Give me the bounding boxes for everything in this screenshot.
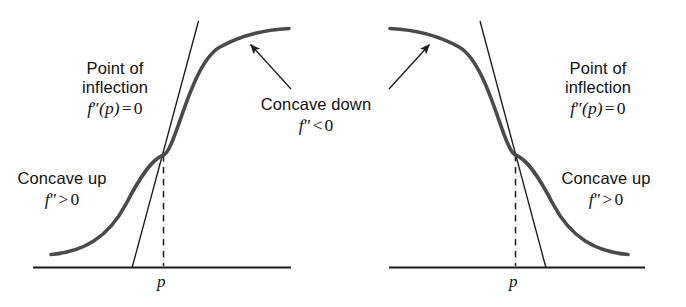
right-concave-up-relation: > xyxy=(600,189,614,209)
left-inflection-value: 0 xyxy=(134,98,143,118)
right-concave-up-value: 0 xyxy=(614,189,623,209)
left-inflection-relation: = xyxy=(120,98,134,118)
left-point-of-inflection-label: Point of inflection f″(p)=0 xyxy=(45,59,185,118)
right-axis-p-label: p xyxy=(509,272,518,292)
left-concave-up-label: Concave up f″>0 xyxy=(2,169,122,209)
left-inflection-line2: inflection xyxy=(45,78,185,97)
left-concave-up-equation: f″>0 xyxy=(2,190,122,209)
right-concave-up-label: Concave up f″>0 xyxy=(545,169,667,209)
right-concave-up-text: Concave up xyxy=(545,169,667,188)
right-concave-up-equation: f″>0 xyxy=(545,190,667,209)
right-concave-down-arrow xyxy=(389,45,430,90)
left-concave-down-equation: f″<0 xyxy=(255,116,377,135)
left-concave-down-text: Concave down xyxy=(255,95,377,114)
right-inflection-equation: f″(p)=0 xyxy=(528,99,668,118)
left-inflection-equation: f″(p)=0 xyxy=(45,99,185,118)
left-concave-down-value: 0 xyxy=(324,115,333,135)
right-point-of-inflection-label: Point of inflection f″(p)=0 xyxy=(528,59,668,118)
left-concave-up-relation: > xyxy=(56,189,70,209)
right-inflection-value: 0 xyxy=(617,98,626,118)
left-inflection-line1: Point of xyxy=(45,59,185,78)
left-axis-p-label: p xyxy=(157,272,166,292)
left-concave-up-value: 0 xyxy=(70,189,79,209)
left-concave-down-relation: < xyxy=(310,115,324,135)
inflection-concavity-figure xyxy=(0,0,686,307)
right-inflection-relation: = xyxy=(603,98,617,118)
left-concave-down-label: Concave down f″<0 xyxy=(255,95,377,135)
right-inflection-line2: inflection xyxy=(528,78,668,97)
left-concave-up-text: Concave up xyxy=(2,169,122,188)
right-inflection-arg: (p) xyxy=(582,98,603,118)
left-concave-down-arrow xyxy=(251,45,292,90)
left-inflection-arg: (p) xyxy=(99,98,120,118)
right-inflection-line1: Point of xyxy=(528,59,668,78)
